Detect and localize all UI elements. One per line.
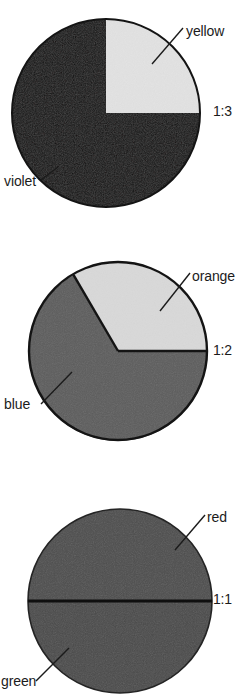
pie-chart-1 <box>12 19 200 207</box>
ratio-label-2: 1:2 <box>213 342 232 358</box>
slice-label-green: green <box>1 673 36 689</box>
pie-3-slice-red <box>28 509 212 601</box>
slice-label-orange: orange <box>192 268 235 284</box>
pie-chart-3 <box>28 509 212 693</box>
ratio-label-3: 1:1 <box>213 591 232 607</box>
slice-label-blue: blue <box>4 396 30 412</box>
slice-label-red: red <box>207 509 227 525</box>
pie-chart-2 <box>29 262 207 441</box>
pie-chart-figure: 1:3 1:2 1:1 yellow violet orange blue re… <box>0 0 244 695</box>
slice-label-violet: violet <box>4 173 36 189</box>
pie-charts-canvas <box>0 0 244 695</box>
pie-3-slice-green <box>28 601 212 693</box>
slice-label-yellow: yellow <box>186 23 224 39</box>
ratio-label-1: 1:3 <box>213 103 232 119</box>
